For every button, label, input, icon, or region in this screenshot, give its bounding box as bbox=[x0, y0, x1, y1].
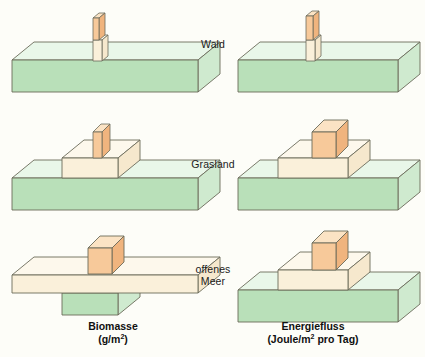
pyramid-offenes-meer-energiefluss bbox=[238, 231, 420, 322]
level-secondary-consumers bbox=[93, 13, 105, 40]
pyramid-grasland-energiefluss bbox=[238, 120, 420, 210]
row-label-wald-text: Wald bbox=[201, 38, 225, 50]
level-secondary-consumers bbox=[306, 11, 319, 40]
column-caption-biomasse-title: Biomasse bbox=[18, 320, 208, 333]
column-caption-energiefluss-title: Energiefluss bbox=[218, 320, 408, 333]
pyramid-wald-biomasse bbox=[12, 13, 220, 92]
column-caption-energiefluss-unit: (Joule/m2 pro Tag) bbox=[218, 333, 408, 346]
pyramid-diagram-canvas bbox=[0, 0, 425, 357]
ecological-pyramid-figure: Wald Grasland offenes Meer Biomasse (g/m… bbox=[0, 0, 425, 357]
pyramid-wald-energiefluss bbox=[238, 11, 420, 92]
unit-suffix: ) bbox=[124, 333, 128, 345]
row-label-wald: Wald bbox=[167, 38, 259, 51]
row-label-grasland: Grasland bbox=[167, 158, 259, 171]
column-caption-energiefluss: Energiefluss (Joule/m2 pro Tag) bbox=[218, 320, 408, 346]
level-secondary-consumers bbox=[93, 124, 110, 158]
row-label-offenes-meer-line2: Meer bbox=[167, 275, 259, 287]
column-caption-biomasse: Biomasse (g/m2) bbox=[18, 320, 208, 346]
unit-prefix: (g/m bbox=[98, 333, 120, 345]
row-label-offenes-meer-line1: offenes bbox=[167, 263, 259, 275]
unit-prefix: (Joule/m bbox=[267, 333, 310, 345]
column-caption-biomasse-unit: (g/m2) bbox=[18, 333, 208, 346]
unit-suffix: pro Tag) bbox=[314, 333, 358, 345]
level-producers bbox=[238, 42, 420, 92]
row-label-offenes-meer: offenes Meer bbox=[167, 263, 259, 287]
row-label-grasland-text: Grasland bbox=[191, 158, 234, 170]
